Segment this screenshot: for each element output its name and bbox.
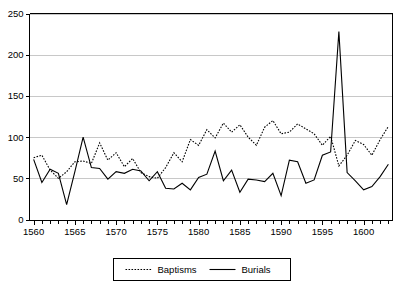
x-tick-label: 1595 [312,226,333,237]
y-tick-label: 100 [8,132,24,143]
x-tick-label: 1565 [64,226,85,237]
y-axis [26,14,30,221]
legend-label-burials: Burials [242,264,271,275]
chart-container: 0501001502002501560156515701575158015851… [0,0,405,290]
x-tick-label: 1585 [229,226,250,237]
y-tick-label: 50 [13,173,24,184]
y-tick-label: 0 [18,214,23,225]
x-axis [30,221,393,226]
x-tick-label: 1600 [353,226,374,237]
legend-label-baptisms: Baptisms [158,264,197,275]
x-tick-label: 1580 [188,226,209,237]
y-tick-label: 150 [8,90,24,101]
x-tick-label: 1560 [23,226,44,237]
y-tick-label: 250 [8,8,24,19]
x-tick-label: 1575 [147,226,168,237]
legend: BaptismsBurials [114,259,291,281]
y-axis-tick-labels: 050100150200250 [8,8,24,225]
y-tick-label: 200 [8,49,24,60]
x-axis-tick-labels: 156015651570157515801585159015951600 [23,226,374,237]
x-tick-label: 1570 [106,226,127,237]
x-tick-label: 1590 [271,226,292,237]
line-chart: 0501001502002501560156515701575158015851… [0,0,405,290]
